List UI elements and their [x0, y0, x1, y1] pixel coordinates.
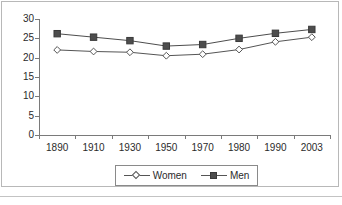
data-point-marker-men [90, 34, 96, 40]
data-point-marker-men [163, 43, 169, 49]
data-point-marker-men [199, 41, 205, 47]
open-diamond-marker-icon [124, 170, 150, 181]
legend-label-women: Women [153, 170, 187, 181]
data-point-marker-women [127, 49, 134, 56]
data-point-marker-women [90, 48, 97, 55]
data-point-marker-men [272, 30, 278, 36]
legend-item-women: Women [124, 170, 187, 181]
chart-legend: Women Men [115, 165, 258, 186]
legend-item-men: Men [201, 170, 249, 181]
data-point-marker-women [199, 51, 206, 58]
data-point-marker-men [127, 37, 133, 43]
bottom-separator-rule [0, 196, 342, 197]
plot-area: 051015202530 189019101930195019701980199… [2, 2, 340, 188]
data-point-marker-men [236, 35, 242, 41]
chart-frame: 051015202530 189019101930195019701980199… [1, 1, 339, 187]
data-point-marker-women [272, 38, 279, 45]
data-point-marker-women [163, 52, 170, 59]
filled-square-marker-icon [201, 170, 227, 181]
series-plot [2, 2, 340, 188]
legend-label-men: Men [230, 170, 249, 181]
data-point-marker-women [236, 46, 243, 53]
data-point-marker-men [309, 26, 315, 32]
data-point-marker-men [54, 30, 60, 36]
data-point-marker-women [308, 34, 315, 41]
data-point-marker-women [54, 47, 61, 54]
